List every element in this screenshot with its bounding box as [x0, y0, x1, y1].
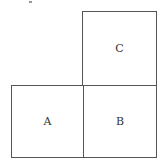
square-c: C [82, 11, 157, 86]
square-b-label: B [116, 115, 124, 128]
square-a-label: A [44, 115, 52, 128]
square-a: A [11, 85, 84, 158]
square-b: B [83, 85, 157, 158]
square-c-label: C [115, 42, 123, 55]
stray-mark [29, 1, 32, 3]
